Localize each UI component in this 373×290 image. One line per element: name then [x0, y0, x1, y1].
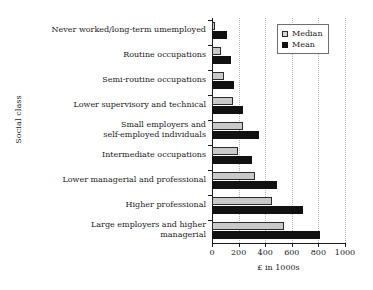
bar-median — [212, 197, 272, 205]
bar-mean — [212, 56, 231, 64]
bar-mean — [212, 156, 252, 164]
category-label-line: managerial — [0, 230, 206, 240]
x-axis-title: £ in 1000s — [212, 263, 345, 272]
bar-mean — [212, 31, 227, 39]
x-tick — [292, 243, 293, 247]
bar-median — [212, 172, 255, 180]
category-label: Never worked/long-term umemployed — [0, 25, 206, 35]
x-tick-label: 600 — [277, 248, 307, 257]
y-tick — [208, 120, 212, 121]
category-label-line: Intermediate occupations — [0, 150, 206, 160]
category-label: Small employers andself-employed individ… — [0, 120, 206, 140]
bar-chart: Social class 02004006008001000 £ in 1000… — [0, 0, 373, 290]
bar-median — [212, 72, 224, 80]
x-tick-label: 0 — [197, 248, 227, 257]
x-tick-label: 200 — [224, 248, 254, 257]
category-label: Lower supervisory and technical — [0, 100, 206, 110]
bar-mean — [212, 131, 259, 139]
x-axis-line — [212, 243, 345, 244]
legend-item-mean: Mean — [282, 39, 323, 50]
x-tick — [345, 243, 346, 247]
category-label-line: Semi-routine occupations — [0, 75, 206, 85]
category-label-line: Lower supervisory and technical — [0, 100, 206, 110]
category-label-line: Large employers and higher — [0, 220, 206, 230]
y-tick — [208, 45, 212, 46]
y-tick — [208, 20, 212, 21]
y-tick — [208, 70, 212, 71]
bar-mean — [212, 106, 243, 114]
legend-item-median: Median — [282, 28, 323, 39]
bar-median — [212, 222, 284, 230]
bar-median — [212, 122, 243, 130]
y-tick — [208, 170, 212, 171]
category-label: Intermediate occupations — [0, 150, 206, 160]
x-tick-label: 400 — [250, 248, 280, 257]
category-label: Routine occupations — [0, 50, 206, 60]
bar-median — [212, 47, 221, 55]
x-tick — [265, 243, 266, 247]
x-tick-label: 1000 — [330, 248, 360, 257]
bar-mean — [212, 181, 277, 189]
x-tick-label: 800 — [303, 248, 333, 257]
x-tick — [239, 243, 240, 247]
legend-label-median: Median — [292, 28, 323, 39]
category-label: Lower managerial and professional — [0, 175, 206, 185]
bar-mean — [212, 81, 234, 89]
bar-mean — [212, 231, 320, 239]
category-label: Large employers and highermanagerial — [0, 220, 206, 240]
category-label-line: Small employers and — [0, 120, 206, 130]
category-label: Higher professional — [0, 200, 206, 210]
bar-mean — [212, 206, 303, 214]
x-tick — [318, 243, 319, 247]
legend: Median Mean — [277, 24, 329, 54]
category-label-line: Routine occupations — [0, 50, 206, 60]
legend-swatch-median-icon — [282, 31, 288, 37]
y-tick — [208, 95, 212, 96]
y-tick — [208, 145, 212, 146]
y-tick — [208, 195, 212, 196]
category-label-line: Never worked/long-term umemployed — [0, 25, 206, 35]
category-label-line: Lower managerial and professional — [0, 175, 206, 185]
x-tick — [212, 243, 213, 247]
y-tick — [208, 220, 212, 221]
legend-swatch-mean-icon — [282, 42, 288, 48]
bar-median — [212, 147, 238, 155]
category-label: Semi-routine occupations — [0, 75, 206, 85]
category-label-line: self-employed individuals — [0, 130, 206, 140]
bar-median — [212, 97, 233, 105]
legend-label-mean: Mean — [292, 39, 315, 50]
bar-median — [212, 22, 215, 30]
category-label-line: Higher professional — [0, 200, 206, 210]
gridline — [345, 18, 346, 243]
